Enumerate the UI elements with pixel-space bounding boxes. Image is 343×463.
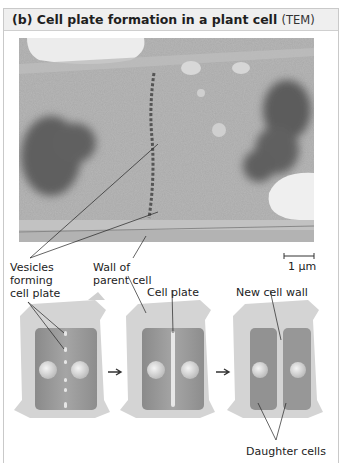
figure-title: (b) Cell plate formation in a plant cell… bbox=[12, 12, 315, 27]
label-vesicles-2: forming bbox=[10, 274, 53, 287]
scale-bar bbox=[283, 253, 315, 259]
label-wall-parent-1: Wall of bbox=[93, 261, 130, 274]
label-vesicles-3: cell plate bbox=[10, 287, 60, 300]
figure-header: (b) Cell plate formation in a plant cell… bbox=[4, 9, 338, 31]
label-vesicles-1: Vesicles bbox=[10, 261, 54, 274]
label-cell-plate: Cell plate bbox=[147, 286, 199, 299]
label-wall-parent-2: parent cell bbox=[93, 274, 151, 287]
title-suffix: (TEM) bbox=[282, 13, 315, 27]
scale-bar-label: 1 µm bbox=[288, 260, 316, 273]
label-daughter-cells: Daughter cells bbox=[246, 445, 326, 458]
title-main: (b) Cell plate formation in a plant cell bbox=[12, 12, 277, 27]
tem-micrograph bbox=[19, 38, 314, 242]
label-new-cell-wall: New cell wall bbox=[236, 286, 308, 299]
